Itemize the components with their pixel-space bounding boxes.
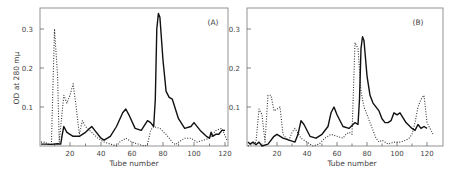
- panel-b-label: (B): [413, 18, 424, 27]
- panel-b: 0.10.20.3 20406080100120 (B) Tube number: [229, 8, 443, 168]
- panel-a-solid-series: [41, 13, 225, 144]
- panel-b-y-ticks: 0.10.20.3: [229, 26, 251, 112]
- panel-b-dotted-series: [248, 43, 433, 146]
- x-tick-label: 60: [128, 150, 137, 158]
- x-tick-label: 120: [420, 150, 433, 158]
- y-tick-label: 0.1: [22, 104, 33, 112]
- x-tick-label: 100: [390, 150, 403, 158]
- panel-b-frame: [247, 8, 443, 146]
- x-tick-label: 40: [303, 150, 312, 158]
- x-tick-label: 40: [97, 150, 106, 158]
- y-tick-label: 0.3: [229, 26, 240, 34]
- x-tick-label: 80: [159, 150, 168, 158]
- x-tick-label: 60: [333, 150, 342, 158]
- y-axis-title: OD at 280 mμ: [12, 51, 21, 104]
- x-tick-label: 20: [66, 150, 75, 158]
- y-tick-label: 0.2: [229, 65, 240, 73]
- x-tick-label: 80: [363, 150, 372, 158]
- panel-a-label: (A): [208, 18, 219, 27]
- panel-b-solid-series: [248, 37, 427, 146]
- y-tick-label: 0.2: [22, 65, 33, 73]
- panel-b-x-axis-title: Tube number: [326, 159, 377, 168]
- panel-a-x-axis-title: Tube number: [108, 159, 159, 168]
- panel-a: 0.10.20.3 20406080100120 (A) Tube number: [22, 8, 232, 168]
- panel-a-y-ticks: 0.10.20.3: [22, 26, 44, 112]
- y-tick-label: 0.3: [22, 26, 33, 34]
- panel-a-x-ticks: 20406080100120: [55, 142, 232, 158]
- chromatogram-figure: OD at 280 mμ 0.10.20.3 20406080100120 (A…: [0, 0, 451, 175]
- panel-b-x-ticks: 20406080100120: [262, 142, 434, 158]
- x-tick-label: 20: [273, 150, 282, 158]
- y-tick-label: 0.1: [229, 104, 240, 112]
- x-tick-label: 100: [187, 150, 200, 158]
- x-tick-label: 120: [218, 150, 231, 158]
